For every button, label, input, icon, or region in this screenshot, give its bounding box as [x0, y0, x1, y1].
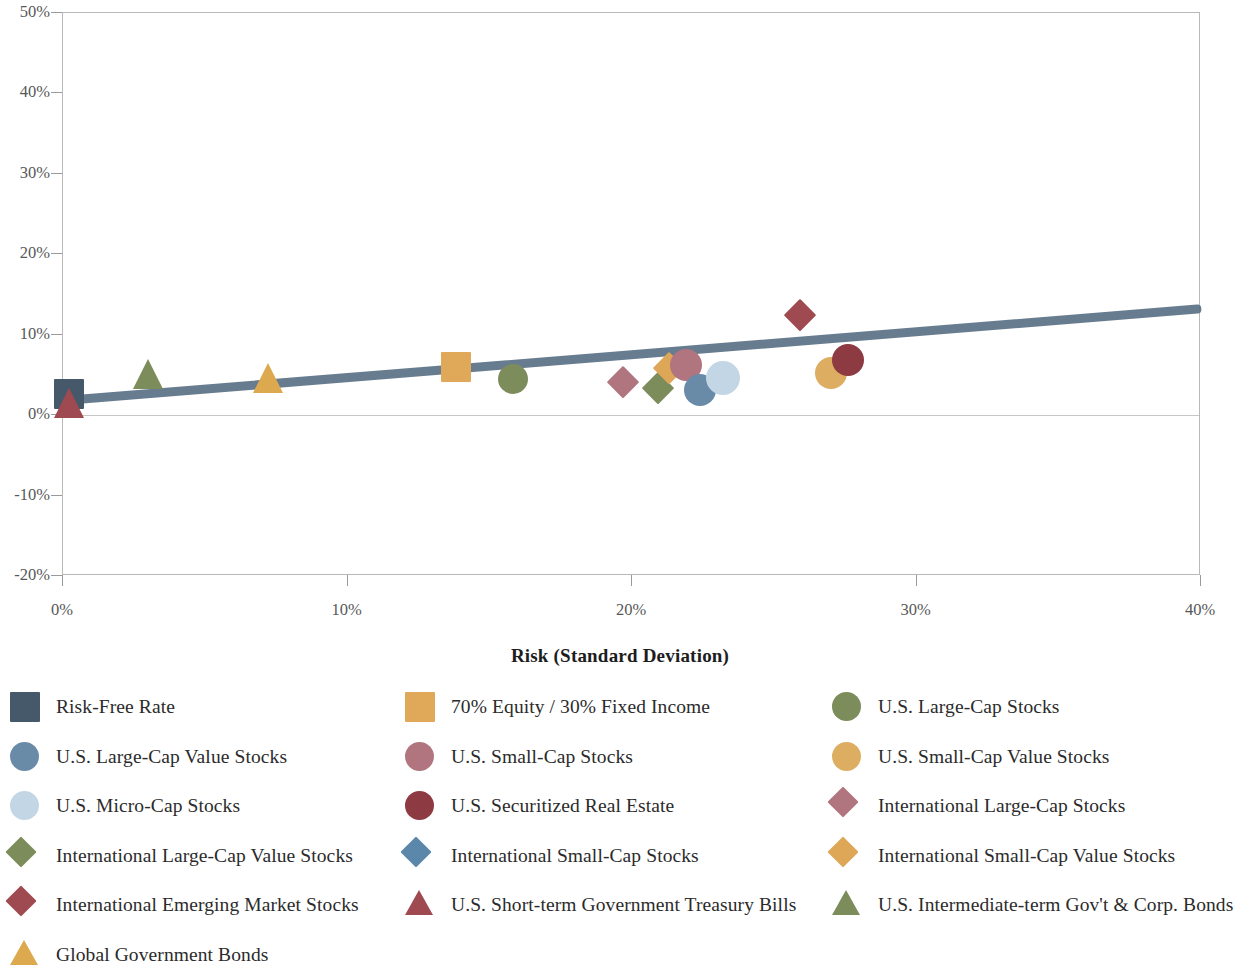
- legend-item[interactable]: U.S. Securitized Real Estate: [405, 785, 674, 827]
- circle-marker-icon: [832, 692, 861, 721]
- legend-item-label: U.S. Short-term Government Treasury Bill…: [451, 894, 796, 916]
- legend-item-label: Global Government Bonds: [56, 944, 268, 966]
- legend-item[interactable]: International Large-Cap Value Stocks: [10, 835, 353, 877]
- circle-marker-icon: [10, 742, 39, 771]
- legend-item-label: International Large-Cap Value Stocks: [56, 845, 353, 867]
- zero-gridline: [63, 415, 1199, 416]
- data-point-marker: [832, 344, 864, 376]
- plot-area: [62, 12, 1200, 575]
- legend-item-label: International Small-Cap Stocks: [451, 845, 699, 867]
- x-axis-title: Risk (Standard Deviation): [0, 645, 1240, 667]
- legend-swatch-triangle-icon: [405, 890, 435, 920]
- legend-item[interactable]: Risk-Free Rate: [10, 686, 175, 728]
- y-axis-tick-label: 30%: [20, 163, 50, 183]
- legend-item-label: U.S. Micro-Cap Stocks: [56, 795, 240, 817]
- x-axis-tick-label: 20%: [616, 600, 646, 620]
- legend-swatch-triangle-icon: [832, 890, 862, 920]
- legend-item-label: 70% Equity / 30% Fixed Income: [451, 696, 710, 718]
- square-marker-icon: [405, 692, 435, 722]
- x-axis-tick-label: 0%: [51, 600, 73, 620]
- legend-item-label: U.S. Intermediate-term Gov't & Corp. Bon…: [878, 894, 1233, 916]
- y-axis-tick-label: 0%: [28, 404, 50, 424]
- legend-swatch-diamond-icon: [832, 841, 862, 871]
- capital-market-line: [63, 304, 1202, 405]
- legend-swatch-circle-icon: [405, 791, 435, 821]
- legend-item-label: U.S. Large-Cap Stocks: [878, 696, 1060, 718]
- legend-swatch-square-icon: [405, 692, 435, 722]
- legend-item-label: International Small-Cap Value Stocks: [878, 845, 1175, 867]
- legend-item[interactable]: 70% Equity / 30% Fixed Income: [405, 686, 710, 728]
- triangle-marker-icon: [832, 890, 860, 915]
- legend-item-label: International Emerging Market Stocks: [56, 894, 359, 916]
- circle-marker-icon: [405, 791, 434, 820]
- legend-swatch-circle-icon: [10, 791, 40, 821]
- diamond-marker-icon: [400, 836, 431, 867]
- legend-item[interactable]: U.S. Intermediate-term Gov't & Corp. Bon…: [832, 884, 1233, 926]
- legend-item[interactable]: International Large-Cap Stocks: [832, 785, 1125, 827]
- legend-item-label: International Large-Cap Stocks: [878, 795, 1125, 817]
- y-axis-tick-label: 20%: [20, 243, 50, 263]
- x-axis-tick-label: 30%: [900, 600, 930, 620]
- legend-swatch-triangle-icon: [10, 940, 40, 970]
- legend-item[interactable]: International Small-Cap Stocks: [405, 835, 699, 877]
- legend-item-label: U.S. Small-Cap Value Stocks: [878, 746, 1109, 768]
- legend-item[interactable]: International Small-Cap Value Stocks: [832, 835, 1175, 877]
- legend-swatch-diamond-icon: [10, 841, 40, 871]
- legend-item[interactable]: U.S. Small-Cap Stocks: [405, 736, 633, 778]
- legend-item-label: U.S. Large-Cap Value Stocks: [56, 746, 287, 768]
- diamond-marker-icon: [827, 836, 858, 867]
- y-axis-tick-label: 10%: [20, 324, 50, 344]
- data-point-marker: [133, 359, 163, 389]
- legend-item[interactable]: U.S. Micro-Cap Stocks: [10, 785, 240, 827]
- legend-item[interactable]: International Emerging Market Stocks: [10, 884, 359, 926]
- legend-item-label: Risk-Free Rate: [56, 696, 175, 718]
- chart-page: 50%40%30%20%10%0%-10%-20% 0%10%20%30%40%…: [0, 0, 1240, 972]
- data-point-marker: [607, 366, 639, 398]
- data-point-marker: [706, 361, 740, 395]
- legend-swatch-diamond-icon: [405, 841, 435, 871]
- circle-marker-icon: [10, 791, 39, 820]
- legend-swatch-circle-icon: [405, 742, 435, 772]
- y-axis-labels: 50%40%30%20%10%0%-10%-20%: [0, 0, 62, 587]
- y-axis-tick-label: -10%: [14, 485, 50, 505]
- diamond-marker-icon: [827, 786, 858, 817]
- y-axis-tick-label: 50%: [20, 2, 50, 22]
- data-point-marker: [441, 352, 471, 382]
- x-axis-tick-label: 40%: [1185, 600, 1215, 620]
- diamond-marker-icon: [5, 885, 36, 916]
- circle-marker-icon: [832, 742, 861, 771]
- triangle-marker-icon: [10, 940, 38, 965]
- legend-swatch-square-icon: [10, 692, 40, 722]
- diamond-marker-icon: [5, 836, 36, 867]
- data-point-marker: [498, 364, 528, 394]
- legend: Risk-Free Rate70% Equity / 30% Fixed Inc…: [0, 686, 1240, 972]
- legend-item-label: U.S. Small-Cap Stocks: [451, 746, 633, 768]
- legend-item[interactable]: U.S. Large-Cap Stocks: [832, 686, 1060, 728]
- x-axis-tick-label: 10%: [331, 600, 361, 620]
- legend-swatch-circle-icon: [832, 742, 862, 772]
- data-point-marker: [54, 388, 84, 418]
- legend-item[interactable]: U.S. Small-Cap Value Stocks: [832, 736, 1109, 778]
- triangle-marker-icon: [405, 890, 433, 915]
- legend-swatch-diamond-icon: [832, 791, 862, 821]
- circle-marker-icon: [405, 742, 434, 771]
- y-axis-tick-label: 40%: [20, 82, 50, 102]
- legend-swatch-circle-icon: [10, 742, 40, 772]
- x-axis-labels: 0%10%20%30%40%: [0, 584, 1240, 624]
- data-point-marker: [253, 363, 283, 393]
- legend-item[interactable]: U.S. Large-Cap Value Stocks: [10, 736, 287, 778]
- legend-swatch-circle-icon: [832, 692, 862, 722]
- legend-swatch-diamond-icon: [10, 890, 40, 920]
- data-point-marker: [784, 299, 816, 331]
- legend-item[interactable]: U.S. Short-term Government Treasury Bill…: [405, 884, 796, 926]
- square-marker-icon: [10, 692, 40, 722]
- legend-item[interactable]: Global Government Bonds: [10, 934, 268, 972]
- legend-item-label: U.S. Securitized Real Estate: [451, 795, 674, 817]
